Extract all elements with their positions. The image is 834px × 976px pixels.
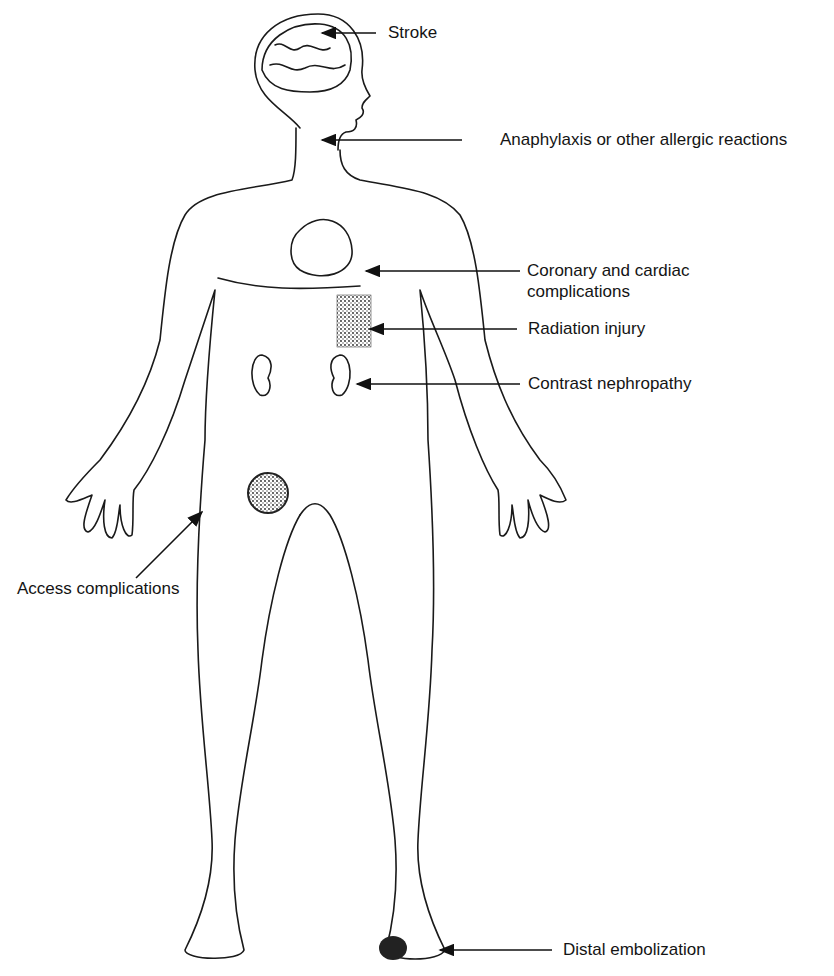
radiation-patch: [337, 295, 371, 347]
arrow-access: [136, 512, 202, 578]
label-radiation: Radiation injury: [528, 318, 645, 339]
brain: [262, 24, 351, 92]
kidney-right: [331, 355, 350, 395]
label-access: Access complications: [17, 578, 180, 599]
label-distal: Distal embolization: [563, 939, 706, 960]
embolized-toes: [379, 936, 407, 960]
kidney-left: [252, 355, 271, 395]
torso-left-outline: [66, 128, 300, 958]
label-coronary: Coronary and cardiac complications: [527, 260, 727, 302]
label-anaphylaxis: Anaphylaxis or other allergic reactions: [500, 129, 787, 150]
label-contrast: Contrast nephropathy: [528, 373, 692, 394]
embolus-sphere: [248, 473, 288, 513]
head-outline: [255, 14, 370, 150]
heart: [291, 220, 352, 276]
label-stroke: Stroke: [388, 22, 437, 43]
